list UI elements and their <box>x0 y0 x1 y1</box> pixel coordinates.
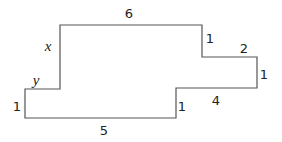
label-bottom-5: 5 <box>100 124 108 137</box>
rectilinear-shape <box>25 25 257 118</box>
label-right-step-1: 1 <box>206 32 214 45</box>
polygon-figure <box>0 0 282 142</box>
label-left-edge-1: 1 <box>13 100 21 113</box>
label-right-edge-1: 1 <box>260 68 268 81</box>
label-variable-x: x <box>45 39 52 54</box>
label-inner-step-1: 1 <box>178 100 186 113</box>
label-right-step-2: 2 <box>240 42 248 55</box>
label-lower-right-4: 4 <box>212 94 220 107</box>
diagram-canvas: 6 1 2 1 4 1 5 1 y x <box>0 0 282 142</box>
label-top-6: 6 <box>125 7 133 20</box>
label-variable-y: y <box>33 73 40 88</box>
